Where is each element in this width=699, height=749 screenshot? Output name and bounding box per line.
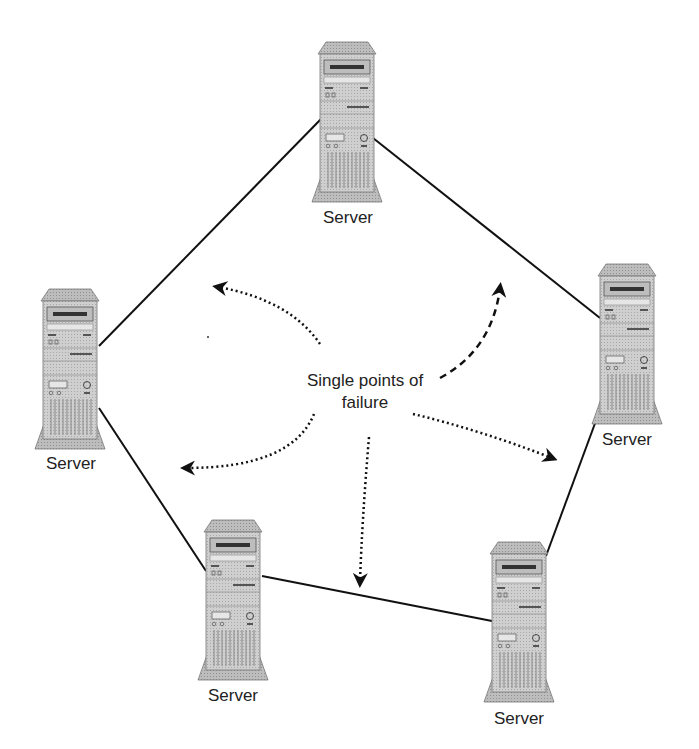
arrow-upper-left <box>218 287 320 344</box>
single-points-of-failure-label: Single points of failure <box>290 370 440 414</box>
server-label-top: Server <box>318 208 378 228</box>
stray-dot <box>207 336 209 338</box>
center-label-line1: Single points of <box>290 370 440 392</box>
server-icon-right <box>592 264 662 424</box>
center-label-line2: failure <box>290 392 440 414</box>
server-icon-bottom-left <box>198 520 268 680</box>
link-bottomleft-left <box>99 408 206 571</box>
server-label-bottom-left: Server <box>203 686 263 706</box>
server-label-bottom-right: Server <box>489 709 549 729</box>
server-icon-bottom-right <box>484 542 554 702</box>
link-right-bottomright <box>546 418 597 556</box>
server-label-left: Server <box>41 454 101 474</box>
server-icon-left <box>35 289 105 449</box>
server-label-right: Server <box>597 430 657 450</box>
arrow-right <box>413 414 552 458</box>
arrow-down <box>360 437 369 582</box>
link-bottomright-bottomleft <box>262 576 492 621</box>
arrow-lower-left <box>186 414 314 468</box>
server-icon-top <box>312 42 382 202</box>
link-top-right <box>373 138 600 318</box>
arrow-upper-right <box>440 288 500 378</box>
